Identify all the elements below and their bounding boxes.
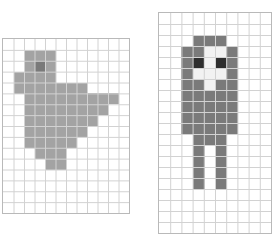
sprite-cell <box>45 115 56 126</box>
sprite-cell <box>87 115 98 126</box>
sprite-cell <box>215 46 227 57</box>
sprite-cell <box>24 93 35 104</box>
sprite-cell <box>181 101 193 112</box>
sprite-cell <box>45 83 56 94</box>
sprite-cell <box>181 46 193 57</box>
sprite-cell <box>193 112 205 123</box>
sprite-cell <box>66 137 77 148</box>
sprite-cell <box>77 126 88 137</box>
sprite-cell <box>14 72 25 83</box>
sprite-cell <box>226 46 238 57</box>
sprite-cell <box>181 68 193 79</box>
sprite-cell <box>215 156 227 167</box>
sprite-cell <box>24 72 35 83</box>
sprite-cell <box>193 35 205 46</box>
sprite-cell <box>215 112 227 123</box>
sprite-cell <box>193 90 205 101</box>
sprite-cell <box>108 93 119 104</box>
sprite-cell <box>204 57 216 68</box>
pixel-art-canvas <box>0 0 279 245</box>
grid-surface <box>2 38 130 214</box>
sprite-cell <box>35 148 46 159</box>
character-sprite <box>159 13 271 233</box>
sprite-cell <box>226 90 238 101</box>
sprite-cell <box>24 104 35 115</box>
sprite-cell <box>193 178 205 189</box>
sprite-cell <box>226 101 238 112</box>
sprite-cell <box>66 104 77 115</box>
sprite-cell <box>77 83 88 94</box>
sprite-cell <box>215 167 227 178</box>
sprite-cell <box>215 79 227 90</box>
sprite-cell <box>56 126 67 137</box>
sprite-cell <box>66 83 77 94</box>
sprite-cell <box>215 145 227 156</box>
sprite-cell <box>98 104 109 115</box>
sprite-cell <box>215 123 227 134</box>
sprite-cell <box>45 159 56 170</box>
sprite-cell <box>35 93 46 104</box>
sprite-cell <box>226 57 238 68</box>
sprite-cell <box>204 46 216 57</box>
sprite-cell <box>193 156 205 167</box>
sprite-cell <box>35 61 46 72</box>
sprite-cell <box>56 159 67 170</box>
sprite-cell <box>56 115 67 126</box>
sprite-cell <box>77 93 88 104</box>
sprite-cell <box>204 68 216 79</box>
sprite-cell <box>193 46 205 57</box>
sprite-cell <box>56 83 67 94</box>
sprite-cell <box>45 126 56 137</box>
sprite-cell <box>45 93 56 104</box>
sprite-cell <box>35 126 46 137</box>
sprite-cell <box>35 50 46 61</box>
sprite-cell <box>204 35 216 46</box>
sprite-cell <box>181 112 193 123</box>
sprite-cell <box>66 115 77 126</box>
sprite-cell <box>24 115 35 126</box>
sprite-cell <box>193 167 205 178</box>
sprite-cell <box>56 104 67 115</box>
sprite-cell <box>77 115 88 126</box>
grid-surface <box>158 12 272 234</box>
sprite-cell <box>226 79 238 90</box>
sprite-cell <box>181 90 193 101</box>
sprite-cell <box>181 79 193 90</box>
sprite-cell <box>215 90 227 101</box>
sprite-cell <box>193 101 205 112</box>
sprite-cell <box>45 72 56 83</box>
sprite-cell <box>45 137 56 148</box>
sprite-cell <box>35 83 46 94</box>
sprite-cell <box>77 104 88 115</box>
sprite-cell <box>226 68 238 79</box>
sprite-cell <box>24 50 35 61</box>
sprite-cell <box>66 93 77 104</box>
left-grid-panel <box>2 38 130 214</box>
sprite-cell <box>226 123 238 134</box>
sprite-cell <box>215 134 227 145</box>
sprite-cell <box>35 137 46 148</box>
sprite-cell <box>14 83 25 94</box>
sprite-cell <box>45 148 56 159</box>
sprite-cell <box>181 123 193 134</box>
sprite-cell <box>24 137 35 148</box>
sprite-cell <box>193 79 205 90</box>
sprite-cell <box>45 50 56 61</box>
sprite-cell <box>87 93 98 104</box>
sprite-cell <box>215 57 227 68</box>
sprite-cell <box>35 115 46 126</box>
sprite-cell <box>193 68 205 79</box>
sprite-cell <box>204 112 216 123</box>
sprite-cell <box>193 134 205 145</box>
sprite-cell <box>204 79 216 90</box>
sprite-cell <box>66 126 77 137</box>
sprite-cell <box>98 93 109 104</box>
right-grid-panel <box>158 12 272 234</box>
sprite-cell <box>45 61 56 72</box>
sprite-cell <box>181 57 193 68</box>
sprite-cell <box>193 145 205 156</box>
sprite-cell <box>215 178 227 189</box>
sprite-cell <box>204 90 216 101</box>
sprite-cell <box>24 126 35 137</box>
sprite-cell <box>87 104 98 115</box>
